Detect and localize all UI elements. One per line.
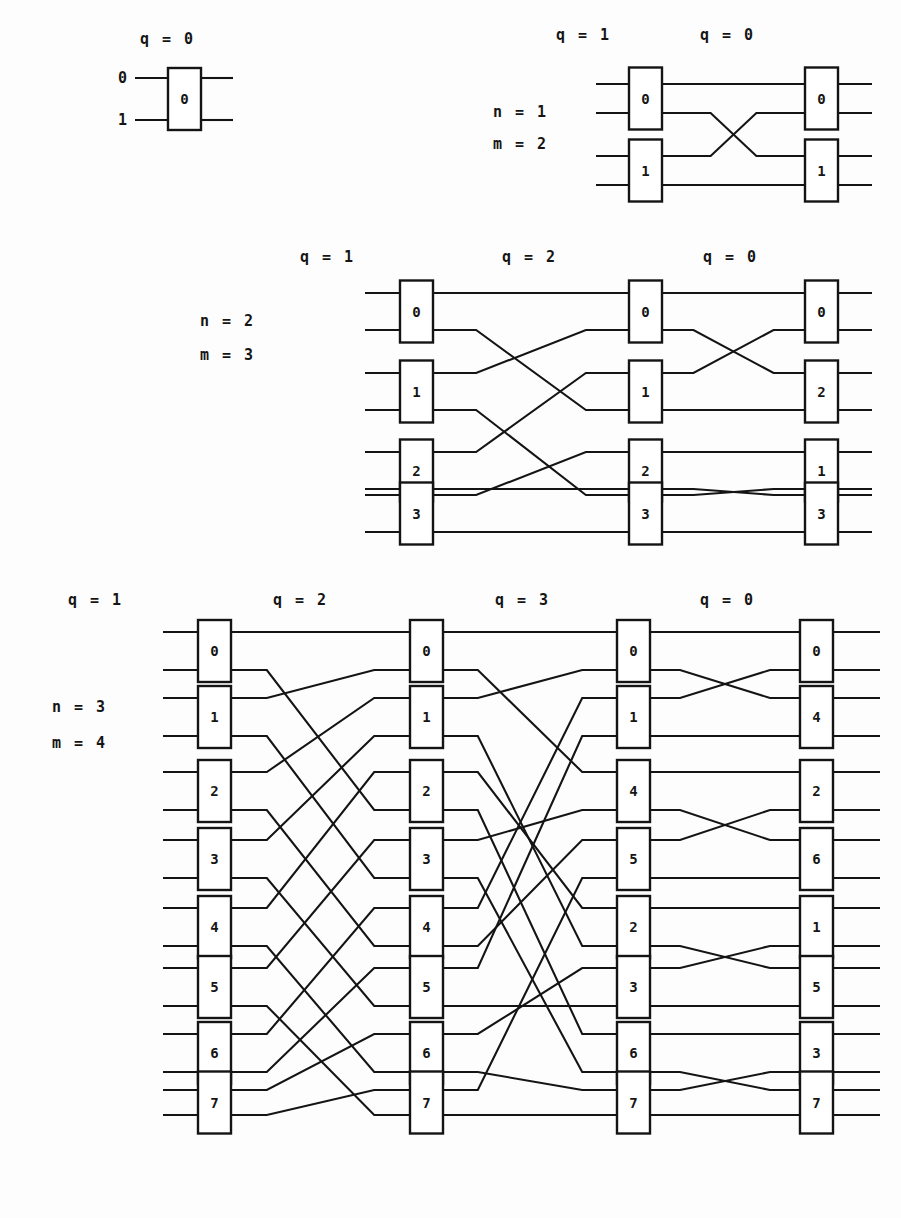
switch-label-s0-1: 1 <box>210 709 218 725</box>
switch-label-s2-7: 7 <box>629 1095 637 1111</box>
link-s0-4 <box>433 373 629 452</box>
switch-label-s1-0: 0 <box>641 304 649 320</box>
diagram-n3-m4: q = 1q = 2q = 3q = 0n = 3m = 40123456701… <box>52 591 880 1134</box>
switch-label-s2-3: 3 <box>817 506 825 522</box>
switch-label-s2-5: 3 <box>629 979 637 995</box>
switch-label-s0-2: 2 <box>412 463 420 479</box>
switch-label-s3-7: 7 <box>812 1095 820 1111</box>
link-s1-2 <box>443 670 617 698</box>
m-label: m = 2 <box>493 135 548 153</box>
switch-label-s1-0: 0 <box>817 91 825 107</box>
link-s1-2 <box>662 330 805 373</box>
link-s2-10 <box>650 946 800 968</box>
switch-label-s3-3: 6 <box>812 851 820 867</box>
switch-label-s1-3: 3 <box>422 851 430 867</box>
switch-label-s0-3: 3 <box>412 506 420 522</box>
switch-label-s3-5: 5 <box>812 979 820 995</box>
switch-label-s2-0: 0 <box>629 643 637 659</box>
stage-label-1: q = 0 <box>700 26 755 44</box>
stage-label-0: q = 1 <box>300 248 355 266</box>
link-s1-8 <box>443 698 617 908</box>
link-s0-13 <box>231 968 410 1072</box>
stage-label-3: q = 0 <box>700 591 755 609</box>
link-s0-12 <box>231 908 410 1034</box>
link-s0-9 <box>231 946 410 1072</box>
switch-label-s0-0: 0 <box>412 304 420 320</box>
switch-label-s2-2: 4 <box>629 783 637 799</box>
switch-label-s1-2: 2 <box>422 783 430 799</box>
n-label: n = 1 <box>493 103 548 121</box>
link-s0-11 <box>231 1006 410 1115</box>
n-label: n = 2 <box>200 312 255 330</box>
switch-label-s2-0: 0 <box>817 304 825 320</box>
m-label: m = 4 <box>52 734 107 752</box>
switch-label-s0-2: 2 <box>210 783 218 799</box>
link-s1-1 <box>443 670 617 772</box>
switch-label-s3-1: 4 <box>812 709 820 725</box>
switch-label-s3-6: 3 <box>812 1045 820 1061</box>
link-s1-9 <box>443 840 617 946</box>
link-s0-14 <box>231 1034 410 1090</box>
switch-label-s0-1: 1 <box>641 163 649 179</box>
switch-label-s1-7: 7 <box>422 1095 430 1111</box>
link-s2-14 <box>650 1072 800 1090</box>
link-s0-15 <box>231 1090 410 1115</box>
diagram-n1-m2: q = 1q = 0n = 1m = 20101 <box>493 26 872 202</box>
switch-label-s1-5: 5 <box>422 979 430 995</box>
stage-label-1: q = 2 <box>273 591 328 609</box>
switch-label-s2-6: 6 <box>629 1045 637 1061</box>
stage-label-1: q = 2 <box>502 248 557 266</box>
link-s0-1 <box>433 330 629 410</box>
switch-label-s1-6: 6 <box>422 1045 430 1061</box>
switch-label-s2-1: 2 <box>817 384 825 400</box>
stage-label-0: q = 1 <box>556 26 611 44</box>
switch-label-s0-0: 0 <box>210 643 218 659</box>
link-s0-3 <box>231 736 410 878</box>
switch-label-s3-4: 1 <box>812 919 820 935</box>
link-s0-2 <box>231 670 410 698</box>
link-s0-6 <box>231 736 410 840</box>
switch-label-s0-4: 4 <box>210 919 218 935</box>
link-s1-6 <box>443 810 617 840</box>
diagram-n0-m1: q = 0010 <box>118 30 233 130</box>
link-s0-10 <box>231 840 410 968</box>
stage-label-0: q = 1 <box>68 591 123 609</box>
stage-label-2: q = 0 <box>703 248 758 266</box>
link-s2-6 <box>650 810 800 840</box>
link-s0-7 <box>231 878 410 1006</box>
switch-label-s1-1: 1 <box>422 709 430 725</box>
switch-label-s1-0: 0 <box>422 643 430 659</box>
switch-label-s2-1: 1 <box>629 709 637 725</box>
permutation-network-figure: q = 0010q = 1q = 0n = 1m = 20101q = 1q =… <box>0 0 901 1218</box>
switch-label-s2-4: 2 <box>629 919 637 935</box>
switch-label-s2-2: 1 <box>817 463 825 479</box>
wire-label-1: 1 <box>118 111 127 129</box>
switch-label-s2-3: 5 <box>629 851 637 867</box>
stage-label-2: q = 3 <box>495 591 550 609</box>
link-s1-14 <box>443 878 617 1090</box>
switch-label-s0-1: 1 <box>412 384 420 400</box>
switch-label-s1-3: 3 <box>641 506 649 522</box>
switch-label-s1-2: 2 <box>641 463 649 479</box>
switch-label-s0-0: 0 <box>641 91 649 107</box>
link-s1-10 <box>443 736 617 968</box>
switch-label-s3-2: 2 <box>812 783 820 799</box>
switch-label: 0 <box>180 91 188 107</box>
wire-label-0: 0 <box>118 69 127 87</box>
switch-label-s1-1: 1 <box>641 384 649 400</box>
switch-label-s0-7: 7 <box>210 1095 218 1111</box>
switch-label-s3-0: 0 <box>812 643 820 659</box>
stage-label-q0: q = 0 <box>140 30 195 48</box>
link-s0-2 <box>433 330 629 373</box>
switch-label-s0-5: 5 <box>210 979 218 995</box>
switch-label-s0-3: 3 <box>210 851 218 867</box>
link-s1-13 <box>443 1072 617 1090</box>
switch-label-s1-1: 1 <box>817 163 825 179</box>
switch-label-s1-4: 4 <box>422 919 430 935</box>
link-s2-2 <box>650 670 800 698</box>
n-label: n = 3 <box>52 698 107 716</box>
m-label: m = 3 <box>200 346 255 364</box>
link-s1-12 <box>443 968 617 1034</box>
switch-label-s0-6: 6 <box>210 1045 218 1061</box>
diagram-n2-m3: q = 1q = 2q = 0n = 2m = 3012301230213 <box>200 248 872 545</box>
